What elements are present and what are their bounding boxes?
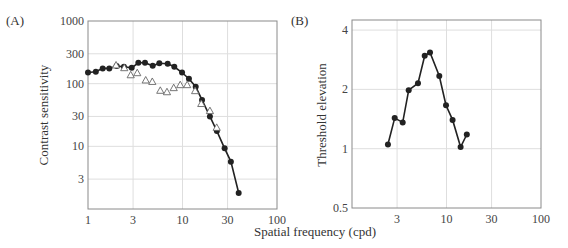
x-axis-title: Spatial frequency (cpd) [254,224,376,239]
x-tick-label: 10 [441,212,453,226]
circle-marker [207,113,213,119]
circle-marker [464,132,470,138]
x-tick-label: 3 [394,212,400,226]
circle-marker [427,49,433,55]
triangle-marker [157,87,164,93]
series-line [388,52,467,147]
panel-a-y-tick-labels: 310301003001000 [60,14,84,186]
circle-marker [458,144,464,150]
circle-marker [186,76,192,82]
circle-marker [106,65,112,71]
circle-marker [415,80,421,86]
x-tick-label: 10 [177,213,189,227]
y-tick-label: 300 [66,47,84,61]
triangle-marker [134,69,141,75]
series-filled-circles [385,49,470,150]
circle-marker [100,65,106,71]
circle-marker [400,119,406,125]
x-tick-label: 100 [532,212,550,226]
circle-marker [422,53,428,59]
y-tick-label: 2 [342,82,348,96]
y-tick-label: 4 [342,23,348,37]
figure: (A) 310301003001000 131030100 Contrast s… [0,0,568,248]
panel-b-label: (B) [291,13,308,28]
panel-b: (B) 0.5124 31030100 Threshold elevation [291,13,550,226]
triangle-marker [170,84,177,90]
circle-marker [156,60,162,66]
y-tick-label: 100 [66,77,84,91]
triangle-marker [163,88,170,94]
circle-marker [135,60,141,66]
circle-marker [171,64,177,70]
circle-marker [406,87,412,93]
panel-b-grid [352,20,541,208]
y-tick-label: 1000 [60,14,84,28]
triangle-marker [149,78,156,84]
circle-marker [85,69,91,75]
circle-marker [450,117,456,123]
panel-b-series [385,49,470,150]
panel-a-grid [88,21,277,209]
circle-marker [222,145,228,151]
x-tick-label: 1 [85,213,91,227]
panel-a-label: (A) [6,13,24,28]
circle-marker [150,63,156,69]
circle-marker [443,102,449,108]
panel-b-x-tick-labels: 31030100 [394,212,550,226]
x-tick-label: 30 [222,213,234,227]
x-tick-label: 3 [130,213,136,227]
y-tick-label: 30 [72,109,84,123]
x-tick-label: 30 [486,212,498,226]
circle-marker [179,69,185,75]
series-open-triangles [112,61,220,130]
panel-a-series [85,60,242,196]
circle-marker [93,69,99,75]
circle-marker [142,60,148,66]
circle-marker [236,190,242,196]
circle-marker [385,142,391,148]
y-tick-label: 0.5 [333,201,348,215]
triangle-marker [142,77,149,83]
circle-marker [436,73,442,79]
circle-marker [165,61,171,67]
panel-b-y-tick-labels: 0.5124 [333,23,348,215]
triangle-marker [184,81,191,87]
panel-a: (A) 310301003001000 131030100 Contrast s… [6,13,286,227]
y-tick-label: 1 [342,142,348,156]
panel-a-y-axis-title: Contrast sensitivity [36,64,51,165]
circle-marker [228,159,234,165]
y-tick-label: 10 [72,139,84,153]
y-tick-label: 3 [78,172,84,186]
panel-b-y-axis-title: Threshold elevation [314,63,329,167]
circle-marker [392,115,398,121]
circle-marker [129,65,135,71]
